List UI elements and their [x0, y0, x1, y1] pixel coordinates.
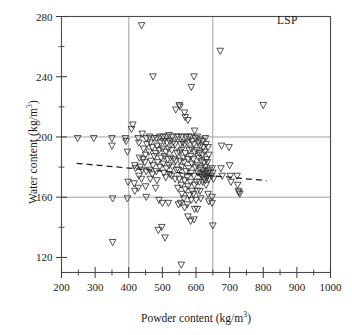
data-point-marker [218, 166, 225, 172]
y-tick-label: 120 [36, 251, 53, 263]
data-point-marker [152, 185, 159, 191]
x-tick-label: 700 [221, 281, 238, 293]
data-point-marker [226, 145, 233, 151]
x-axis-label: Powder content (kg/m3) [61, 312, 331, 324]
y-axis-label: Water content (kg/m3) [27, 57, 39, 247]
x-tick-label: 600 [188, 281, 205, 293]
x-tick-label: 400 [121, 281, 138, 293]
data-point-marker [109, 136, 116, 142]
x-tick-label: 900 [289, 281, 306, 293]
x-tick-label: 800 [255, 281, 272, 293]
axis-tick-labels: 2003004005006007008009001000120160200240… [36, 11, 342, 293]
data-point-marker [124, 196, 131, 202]
data-point-marker [74, 136, 81, 142]
x-tick-label: 1000 [320, 281, 343, 293]
data-point-marker [109, 196, 116, 202]
data-point-marker [148, 158, 155, 164]
data-point-marker [179, 191, 186, 197]
data-point-marker [90, 136, 97, 142]
data-point-marker [191, 128, 198, 134]
x-tick-label: 200 [53, 281, 70, 293]
data-point-marker [218, 143, 225, 149]
data-point-marker [226, 163, 233, 169]
data-point-marker [260, 102, 267, 108]
data-point-marker [227, 173, 234, 179]
x-tick-label: 500 [154, 281, 171, 293]
data-point-marker [109, 239, 116, 245]
trend-line [77, 163, 267, 180]
data-point-marker [234, 182, 241, 188]
data-point-marker [188, 84, 195, 90]
scatter-plot: 2003004005006007008009001000120160200240… [0, 0, 352, 335]
data-point-marker [165, 200, 172, 206]
data-point-marker [131, 181, 138, 187]
plot-annotation-lsp: LSP [277, 14, 298, 26]
data-point-marker [162, 235, 169, 241]
data-points [74, 23, 266, 269]
data-point-marker [178, 262, 185, 268]
data-point-marker [129, 122, 136, 128]
data-point-marker [191, 74, 198, 80]
y-axis-label-exponent: 3 [25, 104, 34, 108]
x-tick-label: 300 [87, 281, 104, 293]
data-point-marker [154, 178, 161, 184]
data-point-marker [138, 23, 145, 29]
data-point-marker [205, 152, 212, 158]
chart-figure: 2003004005006007008009001000120160200240… [0, 0, 352, 335]
data-point-marker [150, 74, 157, 80]
trend-line-dashed [77, 163, 267, 180]
y-tick-label: 280 [36, 11, 53, 23]
data-point-marker [109, 143, 116, 149]
data-point-marker [228, 179, 235, 185]
data-point-marker [142, 184, 149, 190]
data-point-marker [217, 48, 224, 54]
data-point-marker [139, 131, 146, 137]
data-point-marker [124, 149, 131, 155]
data-point-marker [173, 107, 180, 113]
data-point-marker [125, 179, 132, 185]
